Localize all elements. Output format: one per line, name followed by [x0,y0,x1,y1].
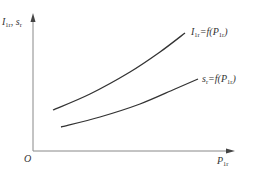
x-axis-arrow-icon [226,149,235,154]
label-eq: =f( [208,73,221,84]
series-label-sr: sr=f(P1r) [202,74,236,86]
label-close: ) [232,73,235,84]
y-axis-label: I1r, sr [2,17,22,29]
curve-sr [61,79,198,127]
curve-I1r [53,33,185,110]
x-axis-label: P1r [217,156,229,168]
origin-label: O [24,154,31,164]
y-label-sub2: r [20,21,22,28]
y-axis-arrow-icon [31,13,36,22]
label-eq: =f( [200,26,213,37]
series-label-I1r: I1r=f(P1r) [191,27,228,39]
x-label-sub: 1r [223,160,228,167]
label-close: ) [224,26,227,37]
